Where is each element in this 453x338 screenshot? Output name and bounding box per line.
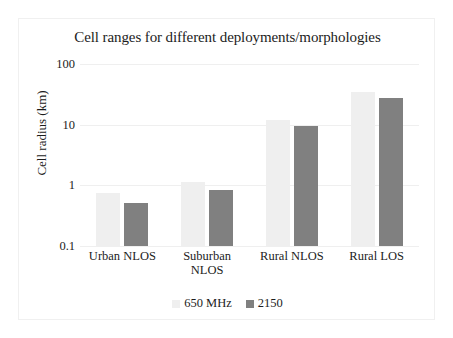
bar-urban-nlos-650-mhz [96,193,120,246]
x-tick-line-1: Rural NLOS [250,249,335,263]
legend-entry-650-mhz: 650 MHz [172,296,232,311]
legend-swatch-icon-2150 [246,300,254,308]
bar-rural-nlos-650-mhz [266,120,290,246]
bar-rural-los-2150 [379,98,403,246]
x-tick-line-2: NLOS [165,263,250,277]
bar-suburban-nlos-650-mhz [181,182,205,246]
x-axis-labels: Urban NLOS Suburban NLOS Rural NLOS Rura… [80,249,419,277]
x-tick-line-1: Suburban [165,249,250,263]
legend-entry-2150: 2150 [246,296,283,311]
gridline-100 [80,64,419,65]
legend-label-650-mhz: 650 MHz [184,296,232,311]
bar-suburban-nlos-2150 [209,190,233,246]
x-tick-line-1: Rural LOS [334,249,419,263]
x-tick-label-suburban-nlos: Suburban NLOS [165,249,250,277]
x-tick-label-rural-los: Rural LOS [334,249,419,277]
chart-container: Cell ranges for different deployments/mo… [18,18,435,320]
x-tick-line-1: Urban NLOS [80,249,165,263]
legend-swatch-icon-650-mhz [172,300,180,308]
chart-title: Cell ranges for different deployments/mo… [19,29,436,46]
y-axis-title: Cell radius (km) [34,58,50,208]
bar-urban-nlos-2150 [124,203,148,246]
gridline-0-1 [80,246,419,247]
bar-rural-nlos-2150 [294,126,318,246]
y-tick-label-0-1: 0.1 [35,240,75,253]
legend-label-2150: 2150 [258,296,283,311]
bar-rural-los-650-mhz [351,92,375,246]
x-tick-label-urban-nlos: Urban NLOS [80,249,165,277]
chart-legend: 650 MHz 2150 [19,296,436,311]
plot-area [80,64,419,246]
x-tick-label-rural-nlos: Rural NLOS [250,249,335,277]
